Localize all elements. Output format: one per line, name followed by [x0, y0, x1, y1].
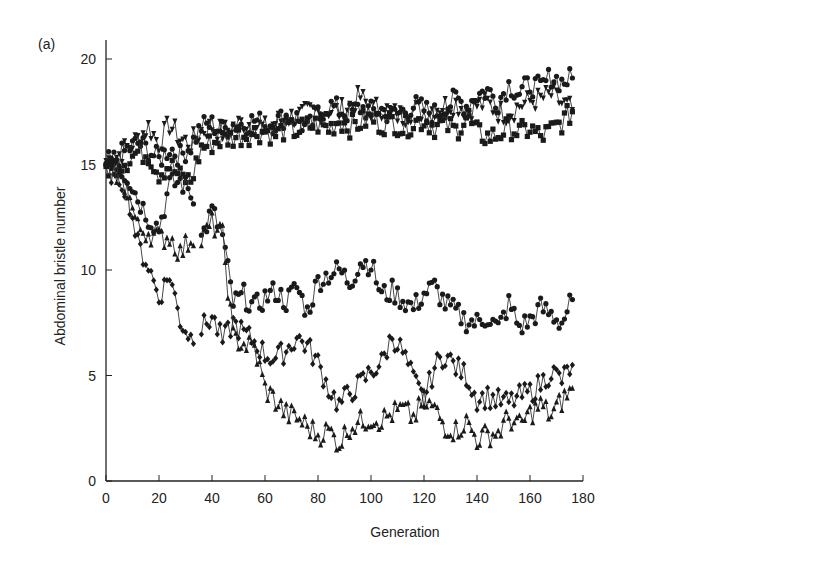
x-tick-label: 180: [571, 490, 595, 506]
y-tick-label: 5: [88, 368, 96, 384]
x-tick-label: 140: [465, 490, 489, 506]
y-tick-label: 20: [80, 51, 96, 67]
y-tick-label: 10: [80, 262, 96, 278]
line-chart: 02040608010012014016018005101520: [0, 0, 818, 572]
x-tick-label: 160: [518, 490, 542, 506]
series-6: [103, 158, 575, 452]
x-tick-label: 60: [257, 490, 273, 506]
x-tick-label: 0: [102, 490, 110, 506]
x-tick-label: 20: [151, 490, 167, 506]
x-axis-label: Generation: [345, 524, 465, 540]
y-axis-label: Abdominal bristle number: [52, 166, 68, 366]
x-tick-label: 100: [359, 490, 383, 506]
x-tick-label: 40: [204, 490, 220, 506]
y-tick-label: 15: [80, 157, 96, 173]
x-tick-label: 120: [412, 490, 436, 506]
data-series: [103, 66, 575, 452]
x-tick-label: 80: [310, 490, 326, 506]
series-5: [103, 158, 575, 413]
panel-label: (a): [38, 36, 55, 52]
y-tick-label: 0: [88, 473, 96, 489]
